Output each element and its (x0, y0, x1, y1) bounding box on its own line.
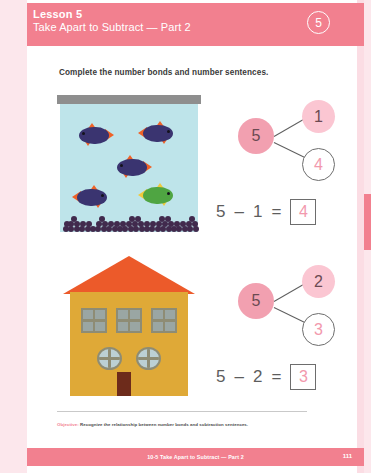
worksheet-page: Lesson 5 Take Apart to Subtract — Part 2… (0, 0, 371, 473)
fish-body (143, 125, 173, 142)
aquarium-illustration (57, 95, 201, 232)
instruction-text: Complete the number bonds and number sen… (59, 68, 268, 77)
number-bond-1: 5 1 4 (238, 100, 368, 186)
pebble (64, 221, 70, 227)
equation-1-equals: = (271, 202, 281, 222)
fish-body (143, 187, 173, 204)
fish (110, 158, 152, 178)
fish-body (79, 127, 109, 144)
bond-part-known-1: 1 (302, 100, 335, 133)
lesson-label: Lesson 5 (33, 8, 82, 20)
bond-total-1: 5 (238, 118, 274, 154)
house-door (117, 372, 131, 396)
fish-body (117, 159, 147, 176)
fish (72, 188, 114, 208)
equation-2-operator: – (234, 367, 243, 387)
equation-1-answer-box[interactable]: 4 (290, 199, 316, 225)
equation-2-minuend: 5 (216, 367, 225, 387)
bond-part-known-2: 2 (302, 265, 335, 298)
fish (138, 124, 180, 144)
pebble (135, 216, 141, 222)
equation-2-answer-box[interactable]: 3 (290, 364, 316, 390)
pebble (71, 216, 77, 222)
house-roof (63, 256, 195, 294)
lesson-title: Take Apart to Subtract — Part 2 (33, 21, 191, 33)
tank-water (60, 104, 198, 232)
number-bond-2: 5 2 3 (238, 265, 368, 351)
house-illustration (57, 256, 201, 396)
equation-1-subtrahend: 1 (253, 202, 262, 222)
equation-2-subtrahend: 2 (253, 367, 262, 387)
square-window (81, 308, 107, 333)
fish (72, 126, 114, 146)
square-window (151, 308, 177, 333)
fish (138, 186, 180, 206)
tank-lid (57, 95, 201, 104)
lesson-number-badge: 5 (307, 11, 330, 34)
round-window (97, 347, 122, 370)
equation-1: 5 – 1 = 4 (216, 199, 316, 225)
pebble (120, 221, 126, 227)
equation-2: 5 – 2 = 3 (216, 364, 316, 390)
objective-text: Recognize the relationship between numbe… (79, 422, 248, 427)
page-edge-strip (357, 0, 364, 473)
pebble (192, 221, 198, 227)
objective-key: Objective: (57, 422, 79, 427)
fish-body (77, 189, 107, 206)
pebble (165, 216, 171, 222)
footer-page-number: 111 (343, 453, 352, 459)
pebble (86, 221, 92, 227)
equation-1-minuend: 5 (216, 202, 225, 222)
bond-total-2: 5 (238, 283, 274, 319)
objective-line: Objective: Recognize the relationship be… (57, 422, 248, 427)
pebble (99, 216, 105, 222)
pebble (189, 216, 195, 222)
equation-2-equals: = (271, 367, 281, 387)
gravel-bed (63, 214, 201, 232)
bond-part-answer-1[interactable]: 4 (302, 148, 335, 181)
equation-1-operator: – (234, 202, 243, 222)
footer-divider (57, 411, 307, 412)
square-window (116, 308, 142, 333)
round-window (136, 347, 161, 370)
bond-part-answer-2[interactable]: 3 (302, 313, 335, 346)
footer-title: 10-5 Take Apart to Subtract — Part 2 (27, 454, 364, 460)
chapter-edge-tab (364, 194, 371, 250)
footer-bar: 10-5 Take Apart to Subtract — Part 2 111 (27, 448, 364, 466)
